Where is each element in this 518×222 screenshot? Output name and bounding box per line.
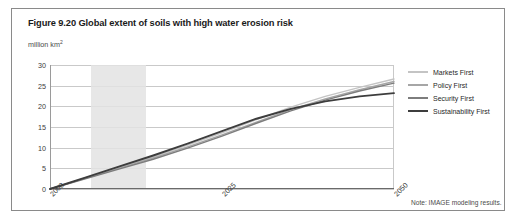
legend-item-label: Policy First [433, 82, 467, 89]
legend-item[interactable]: Sustainability First [408, 105, 508, 117]
x-axis-tick-labels: 200020252050 [50, 190, 394, 216]
legend-swatch-icon [408, 110, 428, 113]
legend-swatch-icon [408, 71, 428, 73]
figure-note: Note: IMAGE modeling results. [411, 199, 502, 206]
y-tick-label: 5 [20, 164, 46, 173]
plot-area [50, 65, 394, 189]
y-tick-label: 15 [20, 123, 46, 132]
legend-item-label: Security First [433, 95, 474, 102]
x-tick-label: 2050 [392, 181, 410, 199]
figure-container: Figure 9.20 Global extent of soils with … [11, 8, 505, 211]
legend-item[interactable]: Policy First [408, 79, 508, 91]
legend-item[interactable]: Security First [408, 92, 508, 104]
legend-item-label: Markets First [433, 69, 473, 76]
legend-swatch-icon [408, 84, 428, 86]
series-lines [50, 65, 394, 189]
y-tick-label: 20 [20, 102, 46, 111]
y-axis-unit-label: million km2 [28, 39, 63, 49]
y-tick-label: 30 [20, 61, 46, 70]
legend-swatch-icon [408, 97, 428, 99]
y-tick-label: 25 [20, 82, 46, 91]
y-tick-label: 10 [20, 144, 46, 153]
legend: Markets FirstPolicy FirstSecurity FirstS… [408, 66, 508, 118]
legend-item-label: Sustainability First [433, 108, 490, 115]
figure-title: Figure 9.20 Global extent of soils with … [28, 18, 293, 28]
y-axis-tick-labels: 051015202530 [18, 65, 46, 189]
y-tick-label: 0 [20, 185, 46, 194]
legend-item[interactable]: Markets First [408, 66, 508, 78]
